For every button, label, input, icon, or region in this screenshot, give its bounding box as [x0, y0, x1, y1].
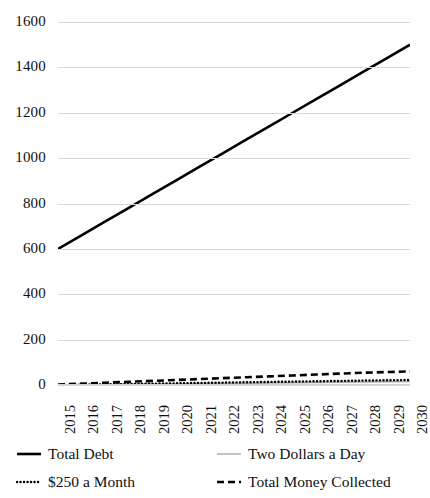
gridline: [58, 22, 410, 23]
x-axis-tick-label: 2024: [274, 405, 289, 434]
legend-item[interactable]: Total Debt: [16, 446, 196, 462]
plot-area: 02004006008001000120014001600: [58, 22, 410, 385]
legend-label: $250 a Month: [48, 474, 135, 490]
solid-thin-line-icon: [216, 448, 242, 460]
legend-item[interactable]: $250 a Month: [16, 474, 196, 490]
gridline: [58, 67, 410, 68]
y-axis-tick-label: 0: [0, 377, 46, 392]
gridline: [58, 385, 410, 386]
legend-item[interactable]: Two Dollars a Day: [196, 446, 408, 462]
gridline: [58, 204, 410, 205]
x-axis-tick-label: 2022: [227, 405, 242, 434]
gridline: [58, 249, 410, 250]
dashed-line-icon: [216, 476, 242, 488]
x-axis-line: [58, 384, 410, 385]
x-axis-tick-label: 2023: [251, 405, 266, 434]
series-line: [58, 45, 410, 249]
gridline: [58, 294, 410, 295]
solid-thick-line-icon: [16, 448, 42, 460]
x-axis-tick-label: 2020: [180, 405, 195, 434]
x-axis-tick-label: 2027: [345, 405, 360, 434]
x-axis-tick-label: 2028: [368, 405, 383, 434]
y-axis-tick-label: 1400: [0, 59, 46, 74]
y-axis-tick-label: 600: [0, 241, 46, 256]
x-axis-tick-label: 2018: [133, 405, 148, 434]
gridline: [58, 158, 410, 159]
y-axis-tick-label: 1000: [0, 150, 46, 165]
gridline: [58, 340, 410, 341]
x-axis-tick-label: 2029: [392, 405, 407, 434]
x-axis-tick-label: 2021: [204, 405, 219, 434]
legend-label: Two Dollars a Day: [248, 446, 365, 462]
legend-label: Total Money Collected: [248, 474, 391, 490]
dotted-line-icon: [16, 476, 42, 488]
y-axis-tick-label: 1600: [0, 14, 46, 29]
x-axis-tick-label: 2015: [63, 405, 78, 434]
x-axis-tick-label: 2030: [415, 405, 430, 434]
chart-legend: Total Debt Two Dollars a Day $250 a Mont…: [16, 440, 408, 496]
y-axis-tick-label: 400: [0, 286, 46, 301]
legend-label: Total Debt: [48, 446, 114, 462]
y-axis-tick-label: 200: [0, 332, 46, 347]
x-axis-tick-label: 2025: [298, 405, 313, 434]
x-axis-tick-label: 2026: [321, 405, 336, 434]
legend-item[interactable]: Total Money Collected: [196, 474, 408, 490]
x-axis-tick-label: 2017: [110, 405, 125, 434]
x-axis-tick-label: 2019: [157, 405, 172, 434]
gridline: [58, 113, 410, 114]
y-axis-tick-label: 1200: [0, 105, 46, 120]
x-axis-tick-label: 2016: [86, 405, 101, 434]
y-axis-tick-label: 800: [0, 196, 46, 211]
